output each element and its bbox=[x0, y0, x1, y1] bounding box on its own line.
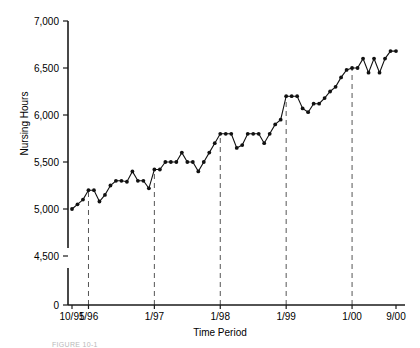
y-tick-label: 6,500 bbox=[34, 63, 59, 74]
data-point bbox=[317, 102, 321, 106]
data-point bbox=[131, 170, 135, 174]
data-point bbox=[163, 160, 167, 164]
y-axis-title: Nursing Hours bbox=[19, 64, 30, 184]
data-point bbox=[394, 49, 398, 53]
chart-figure: 04,5005,0005,5006,0006,5007,00010/951/96… bbox=[0, 0, 420, 348]
data-point bbox=[180, 151, 184, 155]
x-tick-label: 1/97 bbox=[145, 311, 165, 322]
nursing-hours-line-chart: 04,5005,0005,5006,0006,5007,00010/951/96… bbox=[0, 0, 420, 348]
data-point bbox=[312, 102, 316, 106]
data-point bbox=[191, 160, 195, 164]
data-point bbox=[185, 160, 189, 164]
data-point bbox=[76, 202, 80, 206]
data-point bbox=[109, 184, 113, 188]
x-tick-label: 1/96 bbox=[79, 311, 99, 322]
data-point bbox=[87, 188, 91, 192]
data-point bbox=[213, 141, 217, 145]
data-point bbox=[120, 179, 124, 183]
data-point bbox=[98, 200, 102, 204]
data-point bbox=[136, 179, 140, 183]
data-point bbox=[224, 132, 228, 136]
data-point bbox=[389, 49, 393, 53]
data-point bbox=[301, 107, 305, 111]
data-point bbox=[257, 132, 261, 136]
data-point bbox=[295, 94, 299, 98]
data-point bbox=[103, 193, 107, 197]
data-point bbox=[81, 198, 85, 202]
data-point bbox=[169, 160, 173, 164]
data-point bbox=[306, 110, 310, 114]
series-line-nursing-hours bbox=[72, 51, 396, 209]
x-axis-title: Time Period bbox=[150, 327, 290, 338]
data-point bbox=[147, 186, 151, 190]
data-point bbox=[70, 207, 74, 211]
x-tick-label: 1/00 bbox=[342, 311, 362, 322]
data-point bbox=[240, 143, 244, 147]
data-point bbox=[92, 188, 96, 192]
data-point bbox=[158, 168, 162, 172]
data-point bbox=[235, 146, 239, 150]
data-point bbox=[378, 71, 382, 75]
y-tick-label: 4,500 bbox=[34, 251, 59, 262]
data-point bbox=[202, 160, 206, 164]
data-point bbox=[262, 141, 266, 145]
data-point bbox=[383, 57, 387, 61]
data-point bbox=[361, 57, 365, 61]
data-point bbox=[334, 85, 338, 89]
y-tick-label: 7,000 bbox=[34, 16, 59, 27]
y-tick-label: 0 bbox=[53, 300, 59, 311]
y-tick-label: 5,000 bbox=[34, 204, 59, 215]
data-point bbox=[268, 132, 272, 136]
data-point bbox=[356, 66, 360, 70]
data-point bbox=[125, 180, 129, 184]
data-point bbox=[246, 132, 250, 136]
data-point bbox=[328, 90, 332, 94]
data-point bbox=[339, 76, 343, 80]
x-tick-label: 1/99 bbox=[276, 311, 296, 322]
data-point bbox=[350, 66, 354, 70]
x-tick-label: 9/00 bbox=[386, 311, 406, 322]
data-point bbox=[229, 132, 233, 136]
data-point bbox=[284, 94, 288, 98]
y-tick-label: 6,000 bbox=[34, 110, 59, 121]
data-point bbox=[345, 68, 349, 72]
x-tick-label: 1/98 bbox=[211, 311, 231, 322]
data-point bbox=[174, 160, 178, 164]
data-point bbox=[251, 132, 255, 136]
data-point bbox=[152, 168, 156, 172]
data-point bbox=[273, 123, 277, 127]
data-point bbox=[207, 151, 211, 155]
data-point bbox=[196, 170, 200, 174]
data-point bbox=[290, 94, 294, 98]
y-tick-label: 5,500 bbox=[34, 157, 59, 168]
data-point bbox=[114, 179, 118, 183]
data-point bbox=[279, 118, 283, 122]
data-point bbox=[323, 96, 327, 100]
figure-caption: FIGURE 10-1 bbox=[52, 341, 98, 348]
data-point bbox=[141, 179, 145, 183]
data-point bbox=[367, 71, 371, 75]
data-point bbox=[372, 57, 376, 61]
data-point bbox=[218, 132, 222, 136]
